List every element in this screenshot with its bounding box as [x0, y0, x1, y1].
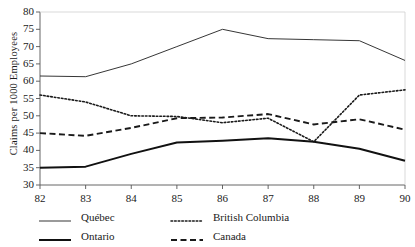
y-tick-80: 80	[12, 5, 34, 17]
y-tick-70: 70	[12, 40, 34, 52]
series-line-ontario	[40, 138, 405, 167]
x-tick-89: 89	[347, 192, 371, 204]
y-tick-75: 75	[12, 22, 34, 34]
x-tick-83: 83	[74, 192, 98, 204]
legend-label: Canada	[213, 230, 246, 242]
legend-label: Ontario	[81, 230, 115, 242]
legend-label: British Columbia	[213, 211, 289, 223]
legend-swatch-solid-thick	[38, 231, 72, 241]
legend-item-british-columbia[interactable]: British Columbia	[170, 208, 289, 225]
series-line-qubec	[40, 29, 405, 76]
legend-item-ontario[interactable]: Ontario	[38, 227, 115, 244]
x-tick-88: 88	[302, 192, 326, 204]
y-tick-60: 60	[12, 74, 34, 86]
y-tick-55: 55	[12, 92, 34, 104]
y-tick-65: 65	[12, 57, 34, 69]
y-tick-45: 45	[12, 126, 34, 138]
legend-swatch-dashed	[170, 231, 204, 241]
x-tick-86: 86	[211, 192, 235, 204]
y-tick-30: 30	[12, 178, 34, 190]
x-tick-90: 90	[393, 192, 415, 204]
legend-item-canada[interactable]: Canada	[170, 227, 246, 244]
x-tick-82: 82	[28, 192, 52, 204]
x-tick-87: 87	[256, 192, 280, 204]
chart-container: Claims per 1000 Employees 30354045505560…	[0, 0, 415, 247]
y-tick-40: 40	[12, 143, 34, 155]
x-tick-84: 84	[119, 192, 143, 204]
series-line-canada	[40, 114, 405, 136]
chart-legend: QuébecBritish ColumbiaOntarioCanada	[0, 206, 415, 247]
series-line-british-columbia	[40, 90, 405, 142]
legend-swatch-solid-thin	[38, 212, 72, 222]
y-tick-50: 50	[12, 109, 34, 121]
legend-label: Québec	[81, 211, 115, 223]
legend-swatch-dotted	[170, 212, 204, 222]
y-tick-35: 35	[12, 161, 34, 173]
x-tick-85: 85	[165, 192, 189, 204]
legend-item-qubec[interactable]: Québec	[38, 208, 115, 225]
